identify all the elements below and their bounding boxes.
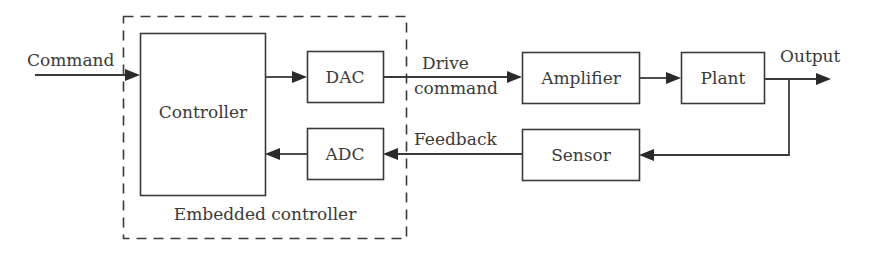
group-label: Embedded controller (174, 204, 357, 224)
amplifier-label: Amplifier (540, 68, 622, 88)
arrow-right-icon (666, 72, 681, 84)
sensor-label: Sensor (551, 145, 612, 165)
drive-label-line2: command (414, 78, 498, 98)
arrow-right-icon (125, 69, 140, 81)
plant-block: Plant (682, 53, 765, 104)
arrow-right-icon (292, 71, 307, 83)
controller-label: Controller (159, 102, 248, 122)
sensor-block: Sensor (523, 130, 640, 181)
command-label: Command (27, 50, 115, 70)
arrow-left-icon (383, 148, 398, 160)
plant-label: Plant (701, 68, 746, 88)
adc-label: ADC (325, 144, 365, 164)
arrow-left-icon (639, 149, 654, 161)
amplifier-block: Amplifier (523, 53, 640, 104)
feedback-label: Feedback (414, 129, 497, 149)
output-label: Output (780, 46, 841, 66)
dac-label: DAC (326, 67, 365, 87)
control-block-diagram: Embedded controller Command Controller D… (0, 0, 871, 253)
arrow-right-icon (507, 71, 522, 83)
arrow-right-icon (816, 73, 831, 85)
drive-label-line1: Drive (422, 53, 469, 73)
adc-block: ADC (308, 129, 384, 180)
arrow-left-icon (265, 148, 280, 160)
controller-block: Controller (141, 34, 266, 196)
dac-block: DAC (308, 52, 384, 103)
